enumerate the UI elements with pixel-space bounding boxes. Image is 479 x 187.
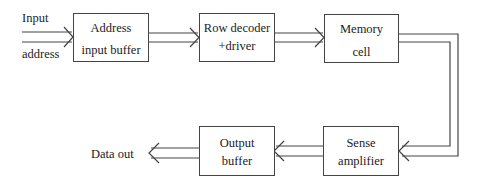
block-label-line1: Row decoder (200, 22, 274, 35)
address-label: address (22, 48, 60, 61)
block-label-line1: Output (200, 137, 274, 150)
block-label-line1: Sense (324, 137, 398, 150)
arrow-row-decoder-to-memory-cell (274, 28, 324, 47)
sense-amplifier-block: Sense amplifier (323, 126, 399, 176)
input-label: Input (22, 12, 48, 25)
block-label-line2: input buffer (74, 44, 148, 57)
output-buffer-block: Output buffer (199, 126, 275, 176)
data-out-label: Data out (91, 148, 134, 161)
memory-cell-block: Memory cell (324, 14, 399, 63)
arrow-output-buffer-to-data-out (149, 143, 199, 163)
block-label-line2: cell (325, 46, 398, 59)
block-label-line2: +driver (200, 40, 274, 53)
block-label-line2: buffer (200, 155, 274, 168)
block-label-line1: Memory (325, 23, 398, 36)
arrow-memory-cell-to-sense-amplifier (398, 34, 458, 161)
block-diagram: Input address Address input buffer Row d… (0, 0, 479, 187)
arrow-address-buffer-to-row-decoder (149, 28, 199, 47)
block-label-line2: amplifier (324, 155, 398, 168)
block-label-line1: Address (74, 22, 148, 35)
row-decoder-driver-block: Row decoder +driver (199, 13, 275, 62)
arrow-input-to-address-buffer (22, 27, 73, 47)
arrow-sense-amplifier-to-output-buffer (274, 141, 323, 161)
address-input-buffer-block: Address input buffer (73, 13, 149, 62)
